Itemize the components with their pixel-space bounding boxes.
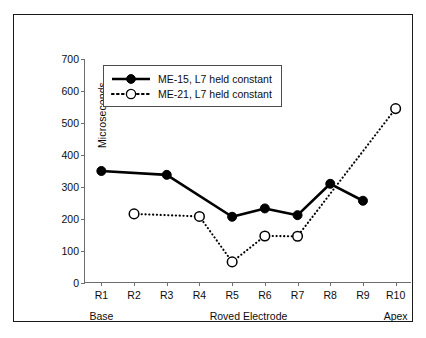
data-point-open <box>293 231 303 241</box>
data-point-filled <box>326 179 335 188</box>
y-tick-label: 300 <box>61 181 79 193</box>
data-point-filled <box>162 170 171 179</box>
legend-label-me21: ME-21, L7 held constant <box>158 88 272 100</box>
legend-label-me15: ME-15, L7 held constant <box>158 73 272 85</box>
plot-area: Microseconds 0100200300400500600700 R1R2… <box>84 59 411 283</box>
x-tick-label: R4 <box>193 289 206 301</box>
y-tick-label: 600 <box>61 85 79 97</box>
figure-container: Microseconds 0100200300400500600700 R1R2… <box>0 0 426 338</box>
x-tick-label: R10 <box>386 289 405 301</box>
data-point-filled <box>97 167 106 176</box>
legend-item-me15: ME-15, L7 held constant <box>111 71 272 86</box>
filled-circle-icon <box>111 72 151 86</box>
x-tick-label: R3 <box>160 289 173 301</box>
data-point-filled <box>260 204 269 213</box>
x-tick-label: R7 <box>291 289 304 301</box>
data-point-open <box>260 231 270 241</box>
x-tick-label: R5 <box>225 289 238 301</box>
data-point-filled <box>358 196 367 205</box>
data-point-open <box>195 212 205 222</box>
chart-legend: ME-15, L7 held constant ME-21, L7 held c… <box>103 65 282 107</box>
y-tick-label: 200 <box>61 213 79 225</box>
x-tick-label: R9 <box>356 289 369 301</box>
y-tick-label: 400 <box>61 149 79 161</box>
x-tick-label: R6 <box>258 289 271 301</box>
legend-item-me21: ME-21, L7 held constant <box>111 86 272 101</box>
y-tick-label: 100 <box>61 245 79 257</box>
series-line-me15 <box>101 171 363 217</box>
x-group-label: Roved Electrode <box>210 310 288 322</box>
x-tick-label: R2 <box>127 289 140 301</box>
y-tick-label: 700 <box>61 53 79 65</box>
x-group-label: Apex <box>384 310 408 322</box>
y-tick-label: 0 <box>73 277 79 289</box>
data-point-filled <box>228 212 237 221</box>
open-circle-icon <box>111 87 151 101</box>
x-tick-label: R1 <box>95 289 108 301</box>
data-point-open <box>227 257 237 267</box>
data-point-filled <box>293 211 302 220</box>
data-point-open <box>129 209 139 219</box>
data-point-open <box>391 104 401 114</box>
y-tick-mark <box>81 283 85 284</box>
x-group-label: Base <box>89 310 113 322</box>
figure-frame-border: Microseconds 0100200300400500600700 R1R2… <box>13 14 413 322</box>
x-tick-label: R8 <box>324 289 337 301</box>
y-tick-label: 500 <box>61 117 79 129</box>
